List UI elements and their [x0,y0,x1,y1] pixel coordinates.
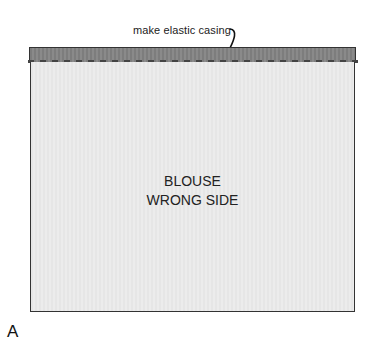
panel-label-line2: WRONG SIDE [31,191,354,210]
figure-label: A [7,322,18,342]
panel-label: BLOUSE WRONG SIDE [31,172,354,210]
blouse-panel: BLOUSE WRONG SIDE [30,62,355,312]
panel-label-line1: BLOUSE [31,172,354,191]
casing-annotation: make elastic casing [133,24,231,36]
